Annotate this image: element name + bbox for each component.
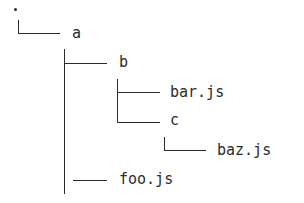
b-children-vertical	[117, 79, 118, 123]
node-b: b	[119, 54, 128, 70]
node-baz-js: baz.js	[217, 142, 271, 158]
root-dot	[14, 8, 17, 11]
b-bar-connector	[117, 92, 160, 93]
node-bar-js: bar.js	[170, 84, 224, 100]
a-foo-connector	[73, 180, 107, 181]
node-c: c	[170, 112, 179, 128]
root-connector-vertical	[18, 20, 19, 34]
c-baz-connector	[164, 150, 206, 151]
node-a: a	[72, 25, 81, 41]
a-children-vertical	[64, 49, 65, 194]
a-b-connector	[64, 63, 107, 64]
root-connector-horizontal	[18, 33, 60, 34]
b-c-connector	[117, 122, 160, 123]
node-foo-js: foo.js	[119, 171, 173, 187]
c-children-vertical	[164, 137, 165, 151]
file-tree-diagram: a b bar.js c baz.js foo.js	[0, 0, 304, 203]
